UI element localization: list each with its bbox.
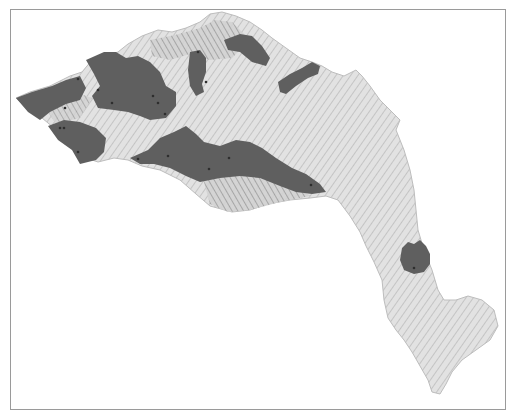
point-marker[interactable] [137, 158, 140, 161]
point-marker[interactable] [77, 78, 80, 81]
point-marker[interactable] [63, 127, 66, 130]
point-marker[interactable] [164, 113, 167, 116]
point-marker[interactable] [157, 102, 160, 105]
point-marker[interactable] [64, 107, 67, 110]
point-marker[interactable] [97, 89, 100, 92]
point-marker[interactable] [111, 102, 114, 105]
point-marker[interactable] [152, 95, 155, 98]
point-marker[interactable] [59, 127, 62, 130]
point-marker[interactable] [167, 155, 170, 158]
point-marker[interactable] [310, 184, 313, 187]
point-marker[interactable] [413, 267, 416, 270]
point-marker[interactable] [77, 151, 80, 154]
point-marker[interactable] [197, 51, 200, 54]
point-marker[interactable] [205, 81, 208, 84]
point-marker[interactable] [208, 168, 211, 171]
map-canvas[interactable] [0, 0, 524, 419]
point-marker[interactable] [228, 157, 231, 160]
